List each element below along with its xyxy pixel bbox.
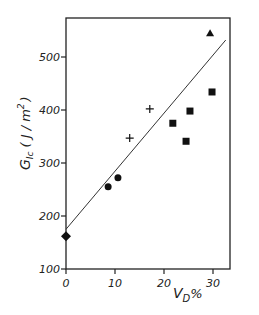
y-tick-label: 400 [39,104,60,117]
diamond-marker [61,231,71,241]
x-tick-label: 20 [157,277,171,290]
svg-text:VD%: VD% [173,285,203,304]
square-marker [186,108,193,115]
plus-marker [126,134,134,142]
svg-text:GIc( J / m2): GIc( J / m2) [16,96,35,170]
y-tick-label: 100 [39,263,60,276]
scatter-chart: 100200300400500 0102030 GIc( J / m2) VD% [0,0,259,315]
square-marker [169,120,176,127]
x-tick-label: 10 [108,277,122,290]
square-marker [209,88,216,95]
x-tick-label: 0 [63,277,70,290]
square-marker [183,138,190,145]
y-tick-label: 300 [39,157,60,170]
data-points [61,29,216,241]
circle-marker [105,183,112,190]
x-tick-label: 30 [206,277,220,290]
y-tick-label: 500 [39,51,60,64]
plot-frame [66,18,230,269]
x-axis-label: VD% [173,285,203,304]
y-tick-label: 200 [39,210,60,223]
fit-line [66,40,226,229]
y-axis-label: GIc( J / m2) [16,96,35,170]
triangle-marker [206,29,214,36]
circle-marker [114,174,121,181]
y-axis-ticks: 100200300400500 [39,51,66,276]
plus-marker [146,105,154,113]
